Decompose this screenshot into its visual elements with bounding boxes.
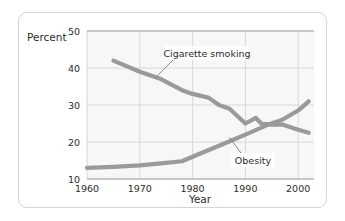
y-tick-label: 20: [68, 137, 80, 148]
line-chart: 1020304050 19601970198019902000 Cigarett…: [19, 13, 326, 207]
annotation-label: Obesity: [235, 155, 272, 166]
figure-card: 1020304050 19601970198019902000 Cigarett…: [18, 12, 327, 208]
x-axis-title: Year: [188, 193, 212, 205]
y-tick-label: 30: [68, 100, 80, 111]
x-tick-label: 1990: [233, 183, 257, 194]
x-tick-label: 2000: [286, 183, 310, 194]
y-tick-labels: 1020304050: [68, 26, 80, 185]
y-tick-label: 50: [68, 26, 80, 37]
y-axis-title: Percent: [27, 31, 67, 43]
x-tick-label: 1970: [128, 183, 152, 194]
annotation-label: Cigarette smoking: [163, 48, 250, 59]
x-tick-label: 1960: [75, 183, 99, 194]
y-tick-label: 40: [68, 63, 80, 74]
